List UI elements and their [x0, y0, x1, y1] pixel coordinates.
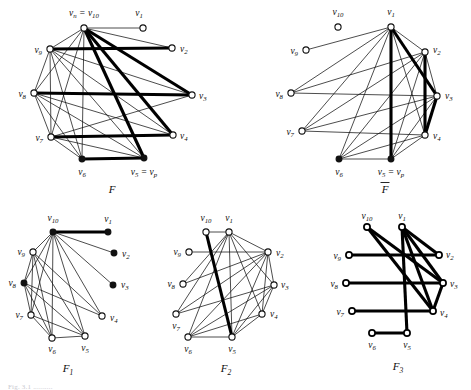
vertex-Fbar-v8[interactable]: [288, 90, 294, 96]
vertex-F3-v6[interactable]: [369, 330, 375, 336]
vertex-label-F3-v10: v10: [361, 211, 373, 222]
vertex-F1-v7[interactable]: [28, 312, 34, 318]
edge-v2-v7: [302, 52, 425, 131]
vertex-F3-v7[interactable]: [349, 308, 355, 314]
edge-v1-v6: [339, 27, 391, 159]
vertex-F2-v5[interactable]: [229, 334, 235, 340]
vertex-label-F1-v10: v10: [47, 213, 59, 224]
vertex-F3-v9[interactable]: [346, 252, 352, 258]
edge-v8-v6: [34, 93, 82, 159]
vertex-label-Fbar-v5: v5 = vp: [378, 167, 405, 178]
vertex-F2-v8[interactable]: [180, 281, 186, 287]
vertex-F2-v9[interactable]: [186, 249, 192, 255]
vertex-label-Fbar-v10: v10: [332, 7, 344, 18]
edge-v2-v3: [268, 252, 274, 285]
vertex-Fbar-v5[interactable]: [388, 156, 394, 162]
vertex-Fbar-v7[interactable]: [299, 128, 305, 134]
edge-v8-v4: [34, 93, 173, 135]
edge-v2-v6: [339, 52, 425, 159]
graph-panel-F1: v1v2v3v4v5v6v7v8v9v10F1: [8, 213, 130, 377]
edge-v9-v5: [33, 252, 85, 336]
vertex-F-v10[interactable]: [81, 25, 87, 31]
vertex-F2-v7[interactable]: [173, 311, 179, 317]
vertex-F3-v2[interactable]: [436, 252, 442, 258]
vertex-label-F1-v1: v1: [104, 214, 112, 225]
edge-v2-v5: [232, 252, 268, 337]
vertex-F-v8[interactable]: [31, 90, 37, 96]
edge-v6-v5: [52, 336, 85, 338]
edge-v7-v5: [51, 137, 144, 158]
vertex-label-F1-v6: v6: [48, 344, 56, 355]
vertex-label-F3-v8: v8: [330, 279, 338, 290]
vertex-F1-v4[interactable]: [99, 313, 105, 319]
vertex-Fbar-v3[interactable]: [434, 93, 440, 99]
vertex-label-F1-v8: v8: [8, 278, 16, 289]
vertex-F1-v10[interactable]: [50, 229, 56, 235]
vertex-label-Fbar-v9: v9: [290, 46, 298, 57]
edge-v7-v5: [31, 315, 85, 336]
vertex-F2-v1[interactable]: [226, 229, 232, 235]
vertex-F-v4[interactable]: [170, 132, 176, 138]
vertex-F2-v10[interactable]: [203, 229, 209, 235]
edge-v9-v4: [33, 252, 102, 316]
vertex-F-v3[interactable]: [189, 92, 195, 98]
edge-v2-v8: [291, 52, 425, 93]
vertex-F1-v9[interactable]: [30, 249, 36, 255]
vertex-F2-v6[interactable]: [185, 334, 191, 340]
vertex-F-v9[interactable]: [47, 46, 53, 52]
vertex-F2-v3[interactable]: [271, 282, 277, 288]
vertex-label-F3-v3: v3: [450, 279, 458, 290]
vertex-Fbar-v9[interactable]: [303, 47, 309, 53]
vertex-label-F3-v9: v9: [333, 251, 341, 262]
vertex-F3-v3[interactable]: [440, 280, 446, 286]
vertex-label-F2-v1: v1: [225, 213, 233, 224]
vertex-Fbar-v2[interactable]: [422, 49, 428, 55]
vertex-F1-v6[interactable]: [49, 335, 55, 341]
vertex-F2-v2[interactable]: [265, 249, 271, 255]
edge-v3-v5: [391, 96, 437, 159]
vertex-Fbar-v10[interactable]: [335, 24, 341, 30]
vertex-label-F2-v10: v10: [200, 213, 212, 224]
vertex-F1-v2[interactable]: [111, 250, 117, 256]
vertex-label-F2-v3: v3: [281, 280, 289, 291]
edge-v8-v5: [24, 283, 85, 336]
vertex-label-F3-v2: v2: [446, 250, 454, 261]
vertex-label-Fbar-v4: v4: [433, 131, 441, 142]
edge-v1-v4: [229, 232, 262, 314]
edge-v10-v2: [53, 232, 114, 253]
graph-panel-Fbar: v1v2v3v4v5 = vpv6v7v8v9v10F: [275, 7, 453, 195]
vertex-F1-v3[interactable]: [110, 282, 116, 288]
edge-v9-v5: [50, 49, 144, 158]
edge-v3-v5: [232, 285, 274, 337]
vertex-F1-v1[interactable]: [105, 229, 111, 235]
vertex-F-v1[interactable]: [140, 25, 146, 31]
vertex-F3-v5[interactable]: [404, 330, 410, 336]
vertex-F1-v8[interactable]: [21, 280, 27, 286]
graph-figure-canvas: v1v2v3v4v5 = vpv6v7v8v9vn = v10Fv1v2v3v4…: [0, 0, 471, 390]
vertex-F-v2[interactable]: [169, 45, 175, 51]
vertex-F3-v1[interactable]: [399, 224, 405, 230]
edge-v2-v7: [176, 252, 268, 314]
edge-v10-v4: [53, 232, 102, 316]
vertex-F-v6[interactable]: [79, 156, 85, 162]
vertex-F3-v10[interactable]: [364, 224, 370, 230]
edges-thin-F1: [24, 232, 114, 338]
vertex-Fbar-v4[interactable]: [422, 132, 428, 138]
vertex-Fbar-v1[interactable]: [388, 24, 394, 30]
vertex-label-F-v2: v2: [180, 44, 188, 55]
vertex-label-F-v6: v6: [78, 167, 86, 178]
vertex-label-F1-v2: v2: [122, 249, 130, 260]
graph-label-F1: F1: [62, 362, 73, 377]
vertex-F3-v4[interactable]: [430, 308, 436, 314]
vertex-F-v7[interactable]: [48, 134, 54, 140]
vertex-label-Fbar-v3: v3: [445, 91, 453, 102]
edge-v9-v6: [33, 252, 52, 338]
vertex-F-v5[interactable]: [141, 155, 147, 161]
vertex-Fbar-v6[interactable]: [336, 156, 342, 162]
edge-bold-v8-v3: [34, 93, 192, 95]
vertex-F3-v8[interactable]: [343, 280, 349, 286]
vertex-F1-v5[interactable]: [82, 333, 88, 339]
vertex-F2-v4[interactable]: [259, 311, 265, 317]
vertex-label-Fbar-v6: v6: [335, 167, 343, 178]
vertex-label-F-v9: v9: [34, 45, 42, 56]
